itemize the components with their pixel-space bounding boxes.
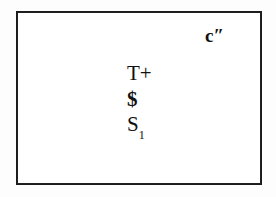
label-s-base: S [127, 112, 139, 136]
label-c-double-prime: c″ [205, 26, 223, 45]
label-s-subscript-digit: 1 [139, 128, 145, 142]
double-prime-mark: ″ [213, 25, 223, 46]
outer-rectangle [16, 11, 262, 185]
label-s-subscript-1: S1 [127, 114, 145, 138]
label-t-plus: T+ [127, 63, 152, 84]
label-dollar-sign: $ [127, 89, 138, 110]
figure-canvas: c″ T+ $ S1 [0, 0, 276, 197]
